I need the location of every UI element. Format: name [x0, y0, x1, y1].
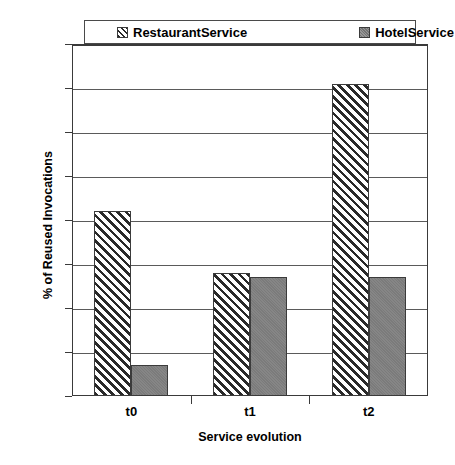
- y-tick-mark: [65, 132, 72, 133]
- chart-legend: RestaurantService HotelService: [84, 20, 416, 44]
- x-tick-label-t0: t0: [101, 404, 161, 419]
- y-tick-mark: [65, 264, 72, 265]
- bar-t2-hotel-service: [369, 277, 406, 396]
- x-tick-mark: [191, 396, 192, 404]
- y-tick-mark: [65, 44, 72, 45]
- y-tick-mark: [65, 308, 72, 309]
- bars-layer: [72, 44, 428, 396]
- bar-t0-hotel-service: [131, 365, 168, 396]
- x-tick-mark: [309, 396, 310, 404]
- y-tick-mark: [65, 220, 72, 221]
- y-axis-ticks: 01020304050607080: [0, 0, 72, 465]
- x-axis-title: Service evolution: [72, 430, 428, 444]
- legend-item-hotel-service: HotelService: [359, 25, 454, 40]
- legend-item-restaurant-service: RestaurantService: [117, 25, 247, 40]
- x-tick-label-t2: t2: [339, 404, 399, 419]
- bar-chart: % of Reused Invocations 0102030405060708…: [0, 0, 455, 465]
- legend-label-hotel-service: HotelService: [375, 25, 454, 40]
- gray-square-icon: [359, 27, 370, 38]
- legend-label-restaurant-service: RestaurantService: [133, 25, 247, 40]
- x-tick-label-t1: t1: [220, 404, 280, 419]
- hatched-square-icon: [117, 27, 128, 38]
- y-tick-mark: [65, 352, 72, 353]
- y-tick-mark: [65, 396, 72, 397]
- y-tick-mark: [65, 88, 72, 89]
- bar-t0-restaurant-service: [94, 211, 131, 396]
- y-tick-mark: [65, 176, 72, 177]
- bar-t1-restaurant-service: [213, 273, 250, 396]
- bar-t1-hotel-service: [250, 277, 287, 396]
- bar-t2-restaurant-service: [332, 84, 369, 396]
